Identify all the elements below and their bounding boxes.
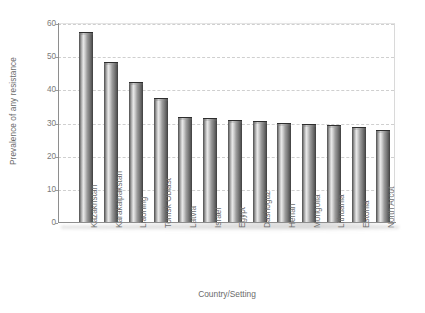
x-axis-tick-label: Dashoguz bbox=[263, 191, 272, 228]
bar-chart-figure: Prevalence of any resistance 01020304050… bbox=[0, 0, 425, 313]
x-axis-tick-label: Egypt bbox=[238, 207, 247, 228]
bar-top-cap bbox=[129, 83, 143, 85]
y-axis-tick-label: 10 bbox=[30, 184, 56, 193]
x-axis-tick-label: Estonia bbox=[362, 200, 371, 228]
bar-top-cap bbox=[79, 33, 93, 35]
y-axis-line bbox=[58, 23, 59, 223]
bar-top-cap bbox=[203, 119, 217, 121]
bar-top-cap bbox=[376, 131, 390, 133]
y-axis-tick-label: 40 bbox=[30, 85, 56, 94]
x-axis-tick-label: Latvia bbox=[189, 206, 198, 228]
y-axis-tick-label: 0 bbox=[30, 218, 56, 227]
gridline bbox=[58, 24, 394, 25]
x-axis-tick-label: Kazakhstan bbox=[90, 185, 99, 228]
gridline bbox=[58, 57, 394, 58]
x-axis-tick-label: Israel bbox=[214, 208, 223, 228]
x-axis-title: Country/Setting bbox=[58, 289, 396, 299]
y-axis-tick-label: 20 bbox=[30, 151, 56, 160]
bar-top-cap bbox=[104, 63, 118, 65]
bar-top-cap bbox=[302, 125, 316, 127]
y-axis-tick-label: 60 bbox=[30, 19, 56, 28]
y-axis-title: Prevalence of any resistance bbox=[0, 0, 26, 222]
bar-top-cap bbox=[327, 126, 341, 128]
bar-top-cap bbox=[228, 121, 242, 123]
bar-top-cap bbox=[178, 118, 192, 120]
y-axis-tick-label: 50 bbox=[30, 52, 56, 61]
y-axis-tickmark bbox=[55, 223, 58, 224]
x-axis-tick-label: Henan bbox=[288, 204, 297, 228]
x-axis-tick-label: Tomsk Oblast bbox=[164, 178, 173, 228]
x-axis-tick-label: Mongolia bbox=[313, 194, 322, 228]
x-axis-tick-label: Liaoning bbox=[139, 197, 148, 228]
x-axis-tick-label: North Arcot bbox=[387, 186, 396, 228]
bar-top-cap bbox=[253, 122, 267, 124]
x-axis-shadow bbox=[61, 226, 399, 230]
bar-top-cap bbox=[154, 99, 168, 101]
y-axis-tick-label: 30 bbox=[30, 118, 56, 127]
plot-area bbox=[58, 23, 395, 223]
bar-top-cap bbox=[277, 124, 291, 126]
bar-top-cap bbox=[352, 128, 366, 130]
x-axis-tick-label: Karakalpakstan bbox=[115, 171, 124, 228]
y-axis-tick-labels: 0102030405060 bbox=[30, 0, 56, 313]
x-axis-tick-label: Lithuania bbox=[337, 194, 346, 228]
